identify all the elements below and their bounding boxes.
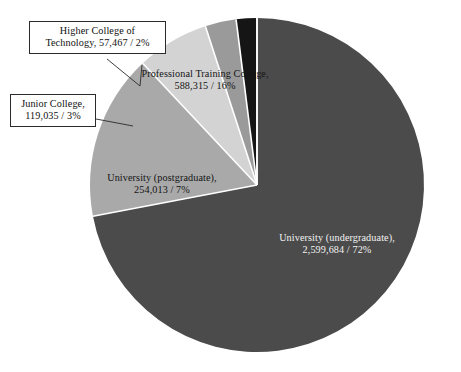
callout-jc-line-1: Junior College, <box>16 98 90 110</box>
slice-label-university-postgraduate: University (postgraduate), 254,013 / 7% <box>72 172 252 196</box>
slice-label-ptc-line-1: Professional Training College, <box>120 68 290 80</box>
callout-jc-line-2: 119,035 / 3% <box>16 110 90 122</box>
slice-label-ug-line-2: 2,599,684 / 72% <box>258 244 416 256</box>
slice-label-ptc-line-2: 588,315 / 16% <box>120 80 290 92</box>
slice-label-ug-line-1: University (undergraduate), <box>258 232 416 244</box>
callout-hct-line-1: Higher College of <box>35 25 160 37</box>
callout-junior-college[interactable]: Junior College, 119,035 / 3% <box>10 94 96 127</box>
slice-label-upg-line-1: University (postgraduate), <box>72 172 252 184</box>
callout-higher-college-of-technology[interactable]: Higher College of Technology, 57,467 / 2… <box>29 21 166 54</box>
slice-label-university-undergraduate: University (undergraduate), 2,599,684 / … <box>258 232 416 256</box>
callout-hct-line-2: Technology, 57,467 / 2% <box>35 37 160 49</box>
slice-label-professional-training-college: Professional Training College, 588,315 /… <box>120 68 290 92</box>
slice-label-upg-line-2: 254,013 / 7% <box>72 184 252 196</box>
pie-chart-figure: Higher College of Technology, 57,467 / 2… <box>0 0 461 372</box>
